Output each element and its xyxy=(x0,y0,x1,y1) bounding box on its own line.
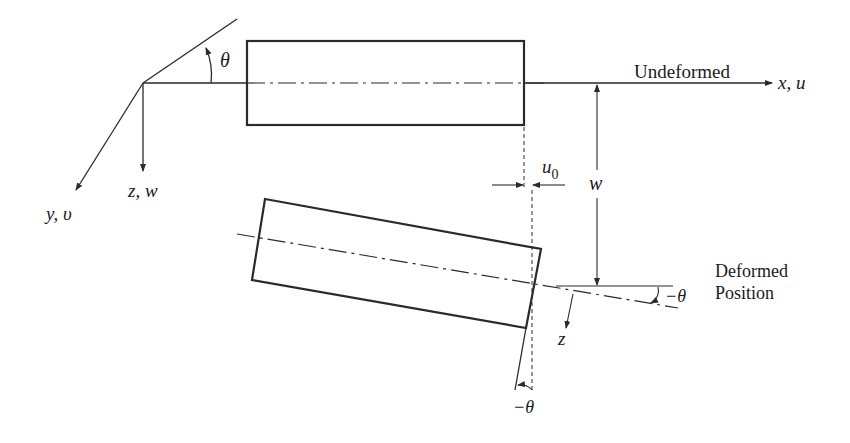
y-axis-arrow xyxy=(76,83,143,190)
w-dimension xyxy=(556,85,673,286)
u0-label: u0 xyxy=(542,156,559,182)
reference-lines xyxy=(524,127,532,392)
w-label: w xyxy=(589,172,603,194)
local-z-arrow xyxy=(566,294,573,328)
undeformed-label: Undeformed xyxy=(634,61,731,82)
deformed-label-line1: Deformed xyxy=(715,261,788,281)
x-axis-label: x, u xyxy=(777,72,805,93)
deformed-label-line2: Position xyxy=(715,283,774,303)
angle-arcs xyxy=(518,287,658,390)
theta-label: θ xyxy=(220,49,230,71)
deformed-beam xyxy=(237,199,678,390)
coordinate-axes xyxy=(76,19,772,190)
undeformed-beam xyxy=(247,41,545,125)
neg-theta-right-arc xyxy=(651,287,658,303)
y-axis-label: y, υ xyxy=(44,203,72,224)
neg-theta-bottom-label: −θ xyxy=(513,397,534,417)
z-axis-label: z, w xyxy=(127,180,158,201)
neg-theta-right-label: −θ xyxy=(665,286,686,306)
deformed-end-extension xyxy=(515,328,526,390)
local-z-label: z xyxy=(557,328,566,349)
neg-theta-bottom-arc xyxy=(518,385,532,390)
deformed-centerline xyxy=(237,234,678,308)
deformed-rectangle xyxy=(252,199,541,328)
theta-arc-arrow xyxy=(206,48,211,83)
beam-deformation-diagram: θ Undeformed x, u z, w y, υ u0 w Deforme… xyxy=(0,0,850,443)
